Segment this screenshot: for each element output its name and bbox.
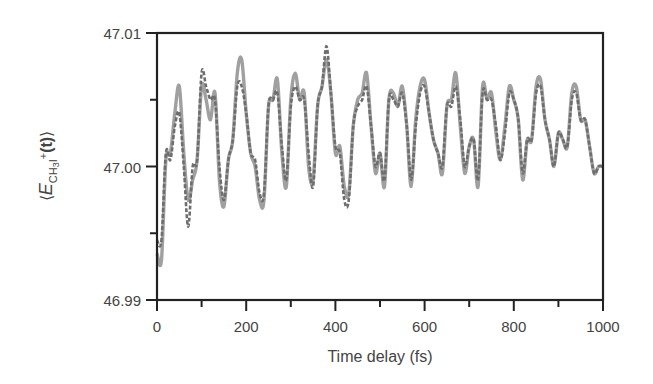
y-tick-label: 47.00 [103, 159, 141, 176]
x-tick-label: 1000 [586, 318, 619, 335]
y-tick-label: 46.99 [103, 292, 141, 309]
x-tick-label: 200 [234, 318, 259, 335]
y-tick-label: 47.01 [103, 25, 141, 42]
x-tick-label: 800 [501, 318, 526, 335]
series-dashed-line [157, 46, 603, 246]
plot-series [157, 46, 603, 265]
x-tick-label: 400 [323, 318, 348, 335]
x-tick-label: 0 [153, 318, 161, 335]
line-chart: 02004006008001000 46.9947.0047.01 Time d… [0, 0, 653, 384]
x-axis: 02004006008001000 [153, 300, 620, 335]
x-axis-title: Time delay (fs) [327, 348, 432, 365]
svg-text:⟨ECH3I+(t)⟩: ⟨ECH3I+(t)⟩ [36, 131, 61, 201]
y-axis-title: ⟨ECH3I+(t)⟩ [36, 131, 61, 201]
x-tick-label: 600 [412, 318, 437, 335]
series-solid-line [157, 57, 603, 266]
y-axis: 46.9947.0047.01 [103, 25, 157, 309]
